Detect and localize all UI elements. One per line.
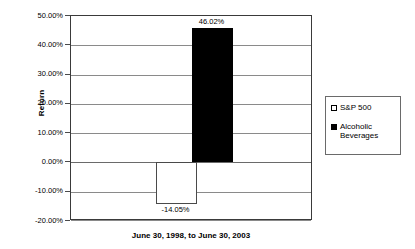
y-axis-tick-mark [65,220,70,221]
legend-swatch-icon [331,124,337,130]
legend-entry-sp500: S&P 500 [331,103,400,113]
x-axis-title: June 30, 1998, to June 30, 2003 [70,231,312,241]
gridline [71,75,311,76]
bar-value-label: 46.02% [179,17,244,26]
legend-label: Alcoholic Beverages [340,122,378,141]
gridline [71,220,311,221]
bar-value-label: -14.05% [143,205,208,214]
y-axis-tick-label: 0.00% [19,157,63,166]
plot-area [70,15,312,220]
gridline [71,45,311,46]
legend-entry-alcoholic-beverages: Alcoholic Beverages [331,122,400,141]
y-axis-tick-label: -20.00% [19,216,63,225]
y-axis-tick-label: 30.00% [19,69,63,78]
gridline [71,104,311,105]
y-axis-tick-label: -10.00% [19,186,63,195]
y-axis-tick-label: 20.00% [19,98,63,107]
legend: S&P 500Alcoholic Beverages [325,96,401,155]
y-axis-tick-label: 40.00% [19,40,63,49]
legend-label: S&P 500 [340,103,371,113]
legend-swatch-icon [331,105,337,111]
y-axis-tick-label: 10.00% [19,128,63,137]
bar-alcoholic-beverages [192,28,233,163]
bar-chart: Return 50.00%40.00%30.00%20.00%10.00%0.0… [0,0,415,249]
bar-sp500 [156,162,197,203]
gridline [71,133,311,134]
y-axis-tick-label: 50.00% [19,11,63,20]
